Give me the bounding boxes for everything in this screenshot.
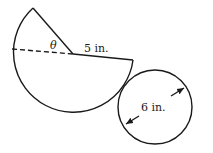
diameter-arrow-upper [171,88,184,96]
diameter-label: 6 in. [141,101,166,114]
sector-arc [14,8,133,112]
dashed-radius [12,49,73,54]
sector-and-circle-diagram: θ 5 in. 6 in. [0,0,213,153]
sector-shape [12,8,133,112]
radius-label: 5 in. [84,42,109,55]
diameter-arrow-lower [126,116,139,124]
theta-label: θ [50,39,57,52]
